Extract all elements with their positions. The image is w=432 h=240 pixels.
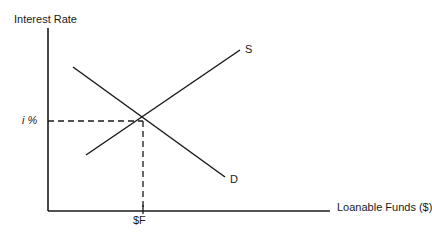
- x-axis-label: Loanable Funds ($): [337, 202, 432, 213]
- equilibrium-funds-label: $F: [133, 215, 146, 226]
- demand-curve: [73, 67, 225, 177]
- y-axis-label: Interest Rate: [14, 14, 77, 25]
- equilibrium-interest-rate-label: i %: [22, 115, 37, 126]
- supply-curve-label: S: [245, 44, 252, 55]
- demand-curve-label: D: [230, 174, 238, 185]
- supply-curve: [86, 50, 240, 155]
